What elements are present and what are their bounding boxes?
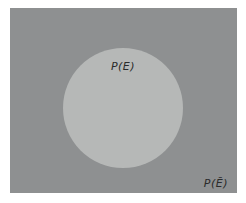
venn-diagram: P(E) P(Ē) bbox=[0, 0, 246, 203]
complement-probability-label: P(Ē) bbox=[204, 178, 228, 189]
event-probability-label: P(E) bbox=[111, 61, 135, 72]
sample-space-rect: P(E) P(Ē) bbox=[10, 8, 237, 193]
event-circle: P(E) bbox=[63, 48, 183, 168]
